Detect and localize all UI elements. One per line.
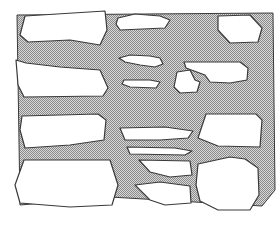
stone-top-left-large bbox=[20, 11, 107, 45]
stone-bottom-center-lower bbox=[135, 182, 191, 205]
stone-bottom-left-large bbox=[15, 160, 118, 207]
stone-center-lower-long bbox=[120, 127, 193, 140]
stone-right-lower bbox=[198, 114, 262, 147]
stone-top-center-small bbox=[116, 14, 170, 30]
stone-wall-diagram bbox=[0, 0, 276, 227]
stone-bottom-right-large bbox=[196, 157, 259, 210]
